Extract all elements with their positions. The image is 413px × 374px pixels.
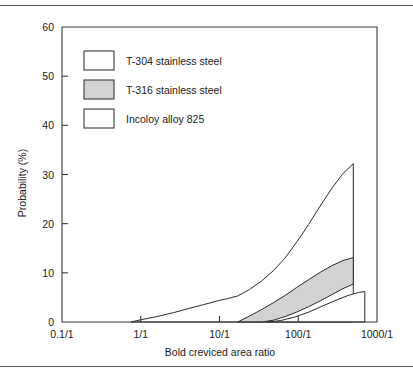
y-tick-label-3: 30 (42, 169, 54, 181)
y-axis-title: Probability (%) (16, 149, 28, 217)
legend-swatch-1 (84, 80, 114, 99)
legend-label-2: Incoloy alloy 825 (126, 113, 204, 125)
legend-label-0: T-304 stainless steel (126, 55, 222, 67)
probability-vs-area-ratio-chart: 0.1/11/110/1100/11000/1 0102030405060 Bo… (0, 8, 413, 364)
bottom-divider-rule (0, 366, 413, 367)
y-tick-label-0: 0 (48, 316, 54, 328)
x-axis-tick-labels: 0.1/11/110/1100/11000/1 (50, 328, 393, 340)
legend-swatch-2 (84, 109, 114, 128)
x-tick-label-0: 0.1/1 (50, 328, 74, 340)
x-tick-label-1: 1/1 (133, 328, 148, 340)
legend-label-1: T-316 stainless steel (126, 84, 222, 96)
y-tick-label-5: 50 (42, 70, 54, 82)
x-tick-label-2: 10/1 (209, 328, 230, 340)
y-tick-label-4: 40 (42, 119, 54, 131)
y-tick-label-1: 10 (42, 267, 54, 279)
x-tick-label-4: 1000/1 (361, 328, 393, 340)
y-tick-label-6: 60 (42, 21, 54, 33)
y-tick-label-2: 20 (42, 218, 54, 230)
x-axis-title: Bold creviced area ratio (165, 346, 275, 358)
legend-swatch-0 (84, 51, 114, 70)
top-divider-rule (0, 5, 413, 6)
chart-legend: T-304 stainless steelT-316 stainless ste… (84, 51, 222, 128)
x-tick-label-3: 100/1 (285, 328, 311, 340)
figure-root: 0.1/11/110/1100/11000/1 0102030405060 Bo… (0, 0, 413, 374)
y-axis-tick-labels: 0102030405060 (42, 21, 54, 328)
